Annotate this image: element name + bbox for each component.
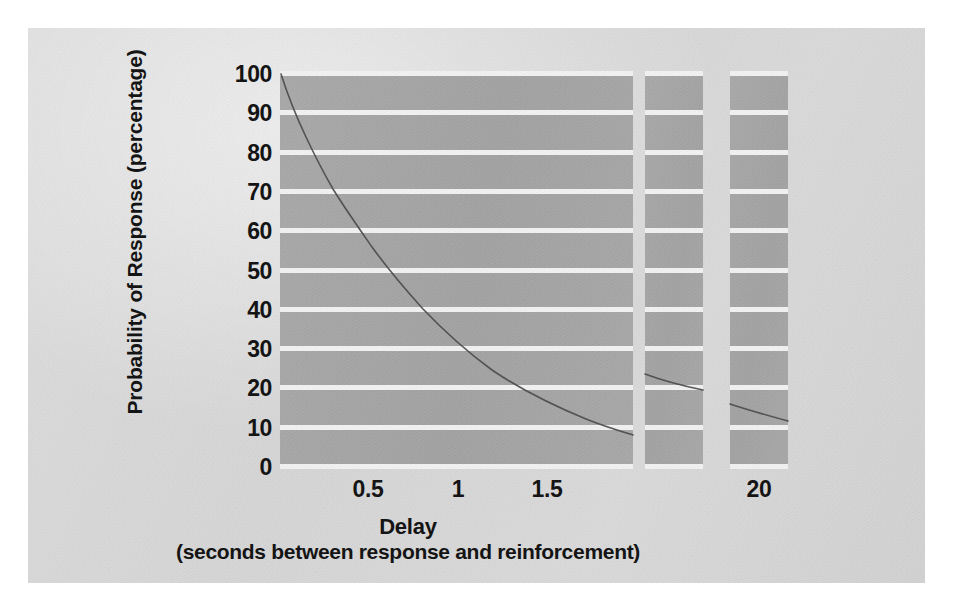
y-tick-0: 0 xyxy=(202,456,272,479)
x-axis-title: Delay xyxy=(28,515,788,540)
plot-panel-main xyxy=(280,74,633,467)
gridline-70 xyxy=(280,189,633,194)
gridline-break1-60 xyxy=(645,228,703,233)
gridline-break2-30 xyxy=(730,346,788,351)
gridline-break2-40 xyxy=(730,307,788,312)
y-tick-20: 20 xyxy=(202,377,272,400)
gridline-40 xyxy=(280,307,633,312)
x-tick-0-5: 0.5 xyxy=(343,478,393,501)
chart-area: 100 90 80 70 60 50 40 30 20 10 0 0.5 1 1… xyxy=(28,28,925,583)
y-tick-50: 50 xyxy=(202,260,272,283)
y-tick-80: 80 xyxy=(202,142,272,165)
y-tick-10: 10 xyxy=(202,417,272,440)
figure-card: 100 90 80 70 60 50 40 30 20 10 0 0.5 1 1… xyxy=(28,28,925,583)
gridline-20 xyxy=(280,385,633,390)
gridline-50 xyxy=(280,268,633,273)
x-tick-1: 1 xyxy=(433,478,483,501)
y-tick-60: 60 xyxy=(202,220,272,243)
gridline-break2-50 xyxy=(730,268,788,273)
gridline-break1-90 xyxy=(645,110,703,115)
gridline-break1-50 xyxy=(645,268,703,273)
gridline-break1-100 xyxy=(645,71,703,76)
y-tick-layer: 100 90 80 70 60 50 40 30 20 10 0 xyxy=(196,28,272,583)
gridline-100 xyxy=(280,71,633,76)
gridline-90 xyxy=(280,110,633,115)
gridline-break1-0 xyxy=(645,464,703,469)
y-tick-40: 40 xyxy=(202,299,272,322)
y-tick-30: 30 xyxy=(202,338,272,361)
y-tick-100: 100 xyxy=(202,63,272,86)
y-tick-70: 70 xyxy=(202,181,272,204)
gridline-break2-60 xyxy=(730,228,788,233)
gridline-80 xyxy=(280,150,633,155)
gridline-60 xyxy=(280,228,633,233)
gridline-30 xyxy=(280,346,633,351)
gridline-break1-80 xyxy=(645,150,703,155)
gridline-break2-70 xyxy=(730,189,788,194)
gridline-break2-80 xyxy=(730,150,788,155)
gridline-break2-10 xyxy=(730,425,788,430)
x-tick-1-5: 1.5 xyxy=(522,478,572,501)
gridline-10 xyxy=(280,425,633,430)
x-axis-title-block: Delay (seconds between response and rein… xyxy=(28,515,788,564)
gridline-break2-90 xyxy=(730,110,788,115)
y-tick-90: 90 xyxy=(202,102,272,125)
gridline-break1-40 xyxy=(645,307,703,312)
x-tick-20: 20 xyxy=(734,478,784,501)
gridline-break2-20 xyxy=(730,385,788,390)
plot-panel-break-1 xyxy=(645,74,703,467)
gridline-break2-0 xyxy=(730,464,788,469)
gridline-break2-100 xyxy=(730,71,788,76)
gridline-break1-30 xyxy=(645,346,703,351)
gridline-break1-10 xyxy=(645,425,703,430)
gridline-break1-70 xyxy=(645,189,703,194)
y-axis-title: Probability of Response (percentage) xyxy=(123,17,147,447)
plot-panel-break-2 xyxy=(730,74,788,467)
x-axis-subtitle: (seconds between response and reinforcem… xyxy=(28,540,788,564)
gridline-0 xyxy=(280,464,633,469)
figure-page: 100 90 80 70 60 50 40 30 20 10 0 0.5 1 1… xyxy=(0,0,954,612)
gridline-break1-20 xyxy=(645,385,703,390)
